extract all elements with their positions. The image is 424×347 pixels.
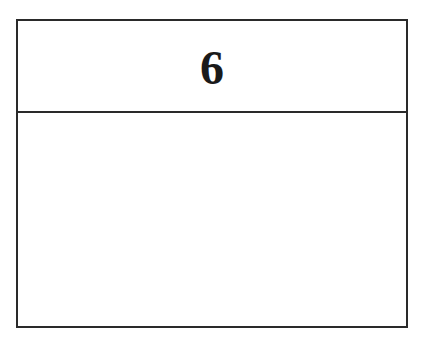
card-number: 6 bbox=[200, 44, 224, 92]
card-header: 6 bbox=[18, 21, 406, 113]
numbered-card: 6 bbox=[16, 19, 408, 328]
card-body bbox=[18, 113, 406, 326]
